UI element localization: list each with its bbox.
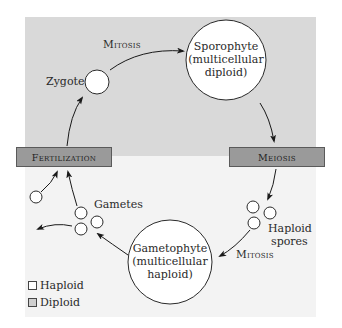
spores-line-2: spores <box>268 235 312 248</box>
zygote-circle <box>85 70 109 94</box>
sporophyte-line-1: Sporophyte <box>186 40 266 53</box>
sporophyte-line-2: (multicellular <box>186 53 266 66</box>
gamete-circle <box>75 207 87 219</box>
arrow-meiosis-to-spores <box>268 169 276 199</box>
gametophyte-text: Gametophyte (multicellular haploid) <box>128 242 212 281</box>
mitosis-bottom-label: Mitosis <box>236 248 274 260</box>
legend-diploid-label: Diploid <box>40 296 80 309</box>
arrow-sporophyte-to-meiosis <box>260 103 274 141</box>
arrow-zygote-to-sporophyte <box>110 51 183 70</box>
gametophyte-line-1: Gametophyte <box>128 242 212 255</box>
legend-diploid: Diploid <box>28 296 80 309</box>
gametophyte-line-3: haploid) <box>128 268 212 281</box>
gametes-label: Gametes <box>94 199 143 211</box>
zygote-label: Zygote <box>46 76 84 88</box>
legend-haploid-label: Haploid <box>40 279 84 292</box>
spore-circle <box>264 207 276 219</box>
spore-circle <box>247 201 259 213</box>
haploid-spores-label: Haploid spores <box>268 222 312 248</box>
sporophyte-line-3: diploid) <box>186 66 266 79</box>
arrow-fertilization-to-zygote <box>67 98 82 146</box>
haploid-swatch <box>28 281 37 290</box>
gamete-circle <box>75 223 87 235</box>
gamete-circle <box>91 216 103 228</box>
sporophyte-text: Sporophyte (multicellular diploid) <box>186 40 266 79</box>
diploid-swatch <box>28 298 37 307</box>
arrow-gamete-to-fertilization-1 <box>41 172 57 192</box>
spores-line-1: Haploid <box>268 222 312 235</box>
fertilization-label: Fertilization <box>32 152 96 163</box>
meiosis-label: Meiosis <box>258 152 296 163</box>
mitosis-top-label: Mitosis <box>103 38 141 50</box>
arrow-gametophyte-to-gametes <box>98 234 128 255</box>
spore-circle <box>248 217 260 229</box>
meiosis-box: Meiosis <box>229 147 325 167</box>
fertilization-box: Fertilization <box>16 147 112 167</box>
legend-haploid: Haploid <box>28 279 84 292</box>
gamete-circle <box>30 191 42 203</box>
arrow-gametes-out <box>38 225 72 229</box>
gametophyte-line-2: (multicellular <box>128 255 212 268</box>
arrow-gamete-to-fertilization-2 <box>68 172 77 206</box>
